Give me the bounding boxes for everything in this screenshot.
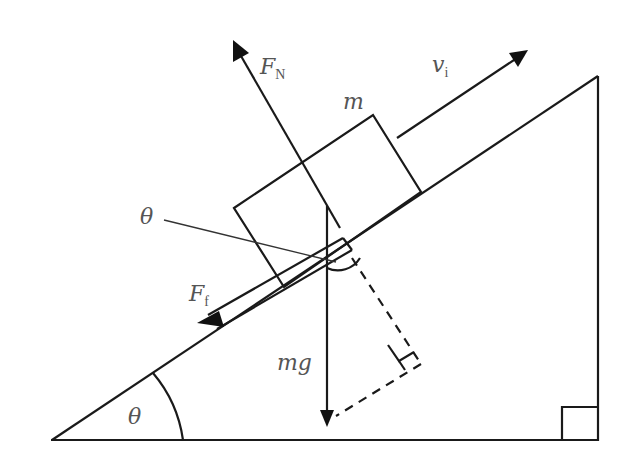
parallel-component-dashed: [336, 364, 421, 416]
velocity-label: vi: [432, 52, 448, 80]
perpendicular-component-dashed: [352, 258, 421, 364]
inclined-plane-diagram: FN vi m θ Ff mg θ: [0, 0, 636, 473]
friction-arrow: [197, 238, 352, 329]
base-angle-label: θ: [128, 404, 141, 429]
mass-label: m: [343, 89, 364, 114]
weight-arrow: [320, 206, 334, 427]
block-angle-arc: [327, 258, 360, 270]
weight-components: [336, 258, 421, 416]
theta-leader-line: [164, 220, 336, 262]
weight-arrowhead-icon: [320, 410, 334, 427]
velocity-arrow: [397, 50, 528, 138]
component-right-angle-marker: [388, 345, 414, 361]
velocity-arrowhead-icon: [509, 50, 528, 67]
normal-force-arrowhead-icon: [233, 40, 249, 62]
right-angle-marker-base: [562, 407, 598, 440]
friction-label: Ff: [188, 281, 209, 309]
block-angle-label: θ: [140, 204, 153, 229]
normal-force-arrow: [233, 40, 340, 228]
weight-label: mg: [277, 350, 312, 375]
base-angle-arc: [153, 373, 183, 440]
normal-force-label: FN: [259, 54, 285, 82]
